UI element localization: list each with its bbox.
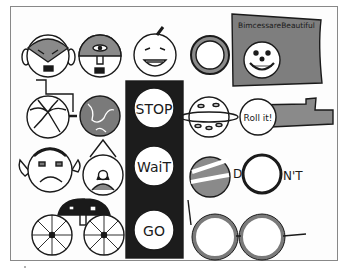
- dont-sign-icon: [243, 155, 281, 193]
- wheelchair-icon: [27, 80, 77, 138]
- roll-it-label: Roll it!: [244, 113, 273, 123]
- collage-canvas: BimcessareBeautiful STOP WaiT GO Roll it…: [0, 0, 348, 275]
- car-icon: [32, 199, 124, 255]
- globe-icon: [80, 96, 120, 136]
- vampire-face-icon: [22, 35, 75, 77]
- stop-label: STOP: [136, 101, 173, 117]
- cyclops-face-icon: [79, 35, 121, 77]
- dont-nt-label: N'T: [283, 169, 303, 183]
- pumpkin-face-icon: [134, 27, 176, 76]
- striped-ball-icon: [190, 157, 230, 197]
- sad-face-icon: [19, 148, 80, 192]
- flag-text: BimcessareBeautiful: [238, 21, 315, 30]
- saturn-planet-icon: [180, 97, 238, 137]
- ring-icon: [191, 36, 229, 74]
- page-mark: [24, 266, 26, 268]
- wait-label: WaiT: [137, 159, 171, 175]
- glasses-icon: [188, 200, 306, 260]
- framed-portrait-icon: [83, 140, 123, 195]
- go-label: GO: [143, 223, 165, 239]
- dont-d-label: D: [233, 167, 242, 181]
